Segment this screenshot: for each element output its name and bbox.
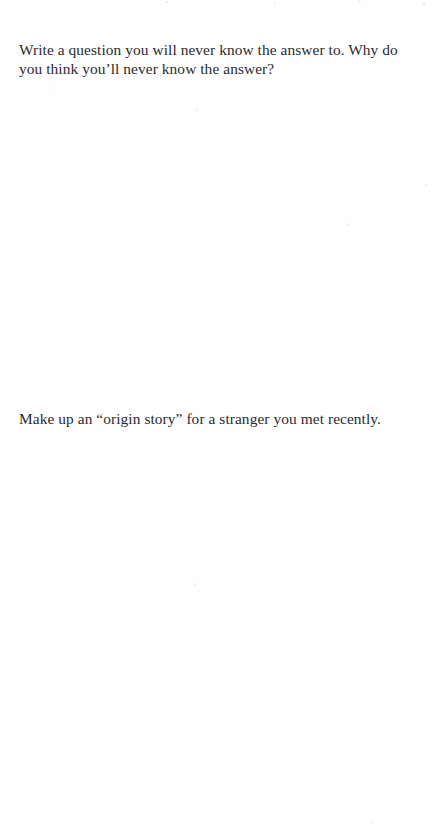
scanned-page: Write a question you will never know the… xyxy=(0,0,433,835)
writing-prompt-question: Write a question you will never know the… xyxy=(19,40,421,79)
writing-prompt-origin-story: Make up an “origin story” for a stranger… xyxy=(19,409,421,428)
